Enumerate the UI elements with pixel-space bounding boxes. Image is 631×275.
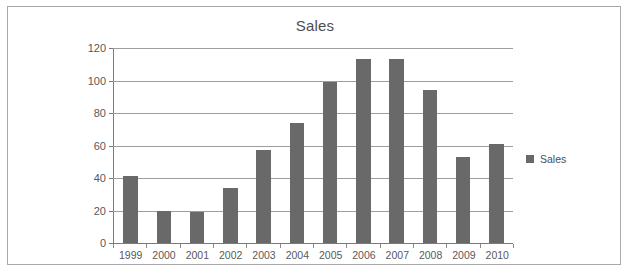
y-tick-mark [109,113,113,114]
x-tick-label-2002: 2002 [214,249,247,261]
bar-2010[interactable] [489,144,504,243]
y-tick-label: 0 [100,237,106,249]
x-tick-mark [413,244,414,248]
y-tick-label: 120 [88,42,106,54]
x-tick-mark [113,244,114,248]
x-tick-mark [446,244,447,248]
chart-title: Sales [8,17,622,34]
bar-2004[interactable] [290,123,305,243]
x-axis-tick-labels: 1999200020012002200320042005200620072008… [114,249,514,261]
y-tick-label: 20 [94,205,106,217]
y-tick-mark [109,81,113,82]
legend-item-label: Sales [540,153,566,165]
x-tick-mark [246,244,247,248]
bar-slot [380,48,413,243]
chart-legend: Sales [526,153,566,165]
y-tick-label: 100 [88,75,106,87]
x-tick-mark [313,244,314,248]
y-tick-label: 80 [94,107,106,119]
x-tick-label-2010: 2010 [481,249,514,261]
x-tick-mark [480,244,481,248]
x-tick-mark [213,244,214,248]
x-tick-mark [180,244,181,248]
y-tick-mark [109,48,113,49]
x-tick-label-2007: 2007 [381,249,414,261]
x-tick-mark [380,244,381,248]
bar-2002[interactable] [223,188,238,243]
x-tick-label-2008: 2008 [414,249,447,261]
bar-slot [181,48,214,243]
bar-2005[interactable] [323,82,338,243]
x-tick-label-2005: 2005 [314,249,347,261]
x-tick-label-2006: 2006 [347,249,380,261]
chart-figure-frame: Sales 020406080100120 199920002001200220… [7,6,621,265]
bar-slot [280,48,313,243]
y-tick-label: 60 [94,140,106,152]
x-tick-mark [513,244,514,248]
bar-slot [114,48,147,243]
x-tick-label-2001: 2001 [181,249,214,261]
x-tick-label-2000: 2000 [147,249,180,261]
chart-screenshot: Sales 020406080100120 199920002001200220… [0,0,631,275]
legend-swatch-icon [526,155,534,163]
bar-slot [413,48,446,243]
y-tick-mark [109,178,113,179]
x-tick-mark [346,244,347,248]
x-tick-label-1999: 1999 [114,249,147,261]
bar-series-sales [114,48,513,243]
y-tick-label: 40 [94,172,106,184]
y-tick-mark [109,211,113,212]
bar-slot [314,48,347,243]
bar-2007[interactable] [389,59,404,243]
x-tick-mark [146,244,147,248]
bar-2001[interactable] [190,212,205,243]
bar-2006[interactable] [356,59,371,243]
y-tick-mark [109,146,113,147]
bar-2003[interactable] [256,150,271,243]
plot-area: 020406080100120 [113,48,513,244]
bar-slot [214,48,247,243]
bar-slot [347,48,380,243]
bar-slot [447,48,480,243]
x-tick-label-2009: 2009 [447,249,480,261]
x-tick-label-2004: 2004 [281,249,314,261]
bar-slot [147,48,180,243]
bar-1999[interactable] [123,176,138,243]
bar-2009[interactable] [456,157,471,243]
bar-2008[interactable] [423,90,438,243]
bar-2000[interactable] [157,211,172,244]
x-tick-label-2003: 2003 [247,249,280,261]
bar-slot [480,48,513,243]
x-tick-mark [280,244,281,248]
bar-slot [247,48,280,243]
